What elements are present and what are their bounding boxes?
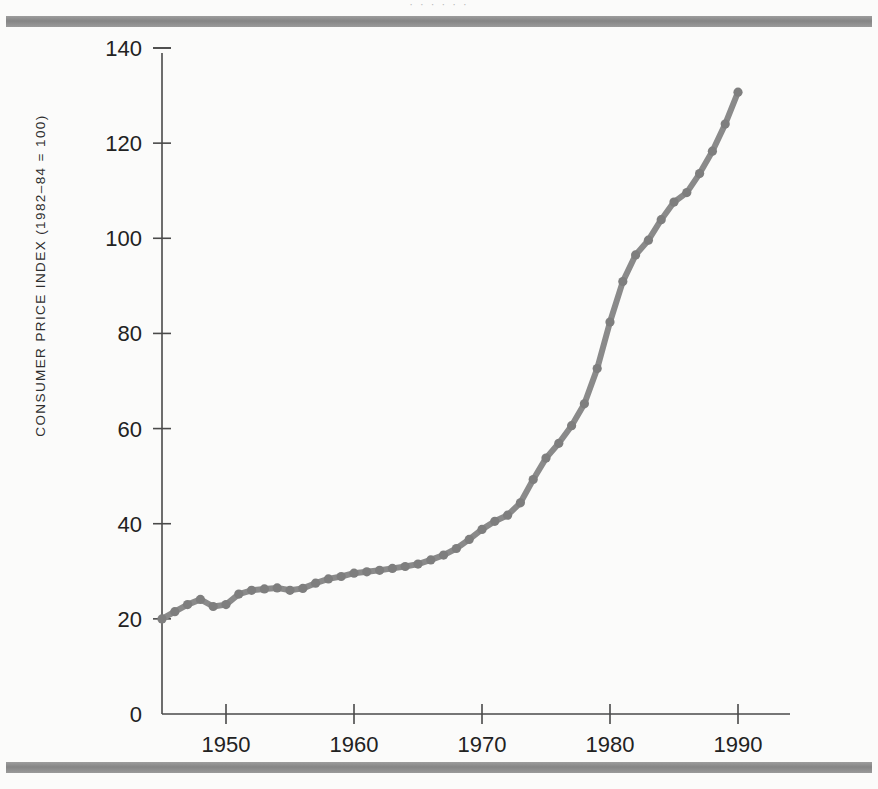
series-data-point	[541, 454, 550, 463]
cpi-line-chart: 02040608010012014019501960197019801990	[0, 28, 878, 758]
series-data-point	[209, 602, 218, 611]
x-tick-label: 1950	[202, 732, 251, 757]
series-data-point	[285, 586, 294, 595]
series-data-point	[452, 544, 461, 553]
y-tick-label: 80	[118, 321, 142, 346]
series-data-point	[337, 572, 346, 581]
series-data-point	[426, 555, 435, 564]
series-data-point	[644, 236, 653, 245]
y-tick-label: 60	[118, 417, 142, 442]
series-data-point	[593, 364, 602, 373]
series-data-point	[682, 188, 691, 197]
series-data-point	[465, 535, 474, 544]
series-data-point	[196, 595, 205, 604]
series-data-point	[580, 399, 589, 408]
x-tick-label: 1990	[714, 732, 763, 757]
x-tick-label: 1960	[330, 732, 379, 757]
y-tick-label: 0	[130, 702, 142, 727]
series-data-point	[733, 88, 742, 97]
chart-page: · · · · · · CONSUMER PRICE INDEX (1982–8…	[0, 0, 878, 789]
y-tick-label: 20	[118, 607, 142, 632]
series-data-point	[529, 475, 538, 484]
series-data-point	[157, 614, 166, 623]
x-tick-label: 1980	[586, 732, 635, 757]
series-data-point	[260, 584, 269, 593]
series-data-point	[401, 562, 410, 571]
series-data-point	[375, 566, 384, 575]
series-data-point	[631, 250, 640, 259]
series-data-point	[388, 564, 397, 573]
series-data-point	[170, 607, 179, 616]
y-tick-label: 40	[118, 512, 142, 537]
x-tick-label: 1970	[458, 732, 507, 757]
series-data-point	[439, 551, 448, 560]
series-data-point	[721, 120, 730, 129]
series-data-point	[554, 439, 563, 448]
y-tick-label: 100	[105, 226, 142, 251]
series-data-point	[273, 583, 282, 592]
series-data-point	[618, 277, 627, 286]
series-data-point	[247, 586, 256, 595]
series-data-point	[669, 198, 678, 207]
series-data-point	[311, 579, 320, 588]
y-tick-label: 140	[105, 36, 142, 61]
series-data-point	[477, 525, 486, 534]
series-data-point	[324, 574, 333, 583]
bottom-rule	[6, 762, 872, 773]
series-data-point	[567, 421, 576, 430]
plot-area: CONSUMER PRICE INDEX (1982–84 = 100) 020…	[0, 28, 878, 758]
series-data-point	[362, 567, 371, 576]
series-data-point	[413, 560, 422, 569]
series-data-point	[695, 169, 704, 178]
series-data-point	[657, 215, 666, 224]
series-data-point	[298, 584, 307, 593]
series-line	[162, 92, 738, 619]
series-data-point	[221, 600, 230, 609]
series-data-point	[183, 600, 192, 609]
series-data-point	[234, 590, 243, 599]
series-data-point	[349, 569, 358, 578]
top-bleed-text: · · · · · ·	[0, 0, 878, 13]
series-data-point	[490, 517, 499, 526]
top-rule	[6, 16, 872, 27]
y-tick-label: 120	[105, 131, 142, 156]
series-data-point	[605, 317, 614, 326]
series-data-point	[503, 511, 512, 520]
series-data-point	[516, 498, 525, 507]
series-data-point	[708, 147, 717, 156]
